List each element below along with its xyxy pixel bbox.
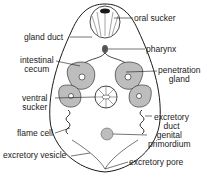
label-excretory-pore: excretory pore	[129, 158, 183, 167]
label-oral-sucker: oral sucker	[134, 14, 176, 23]
label-penetration-gland-line2: gland	[169, 74, 190, 84]
label-intestinal-cecum: intestinal cecum	[20, 56, 54, 74]
label-gland-duct: gland duct	[24, 33, 63, 42]
label-intestinal-cecum-line2: cecum	[24, 64, 49, 74]
label-flame-cell: flame cell	[17, 129, 53, 138]
genital-primordium	[101, 128, 113, 140]
label-ventral-sucker-line2: sucker	[22, 102, 47, 112]
label-genital-primordium: genital primordium	[148, 131, 191, 149]
label-excretory-duct: excretory duct	[154, 113, 189, 131]
oral-sucker	[90, 6, 120, 38]
label-penetration-gland: penetration gland	[158, 66, 201, 84]
label-excretory-vesicle: excretory vesicle	[3, 151, 66, 160]
label-genital-primordium-line2: primordium	[148, 139, 191, 149]
label-pharynx: pharynx	[146, 45, 176, 54]
pharynx	[102, 45, 108, 53]
ventral-sucker	[95, 86, 117, 108]
label-ventral-sucker: ventral sucker	[22, 94, 48, 112]
